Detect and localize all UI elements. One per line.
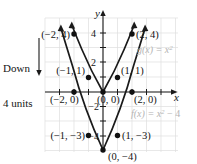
annotation-line-1: Down xyxy=(3,63,33,75)
point-label-neg1-1: (−1, 1) xyxy=(56,65,85,77)
point-label-neg1-neg3: (−1, −3) xyxy=(50,130,85,142)
down-arrow-head xyxy=(36,70,41,76)
point-label-2-0: (2, 0) xyxy=(134,94,157,106)
function-label-f-text: f(x) = x xyxy=(131,108,162,120)
point-marker xyxy=(129,31,134,36)
point-label-1-1: (1, 1) xyxy=(121,65,144,77)
y-tick-label-2: 2 xyxy=(91,57,96,68)
point-label-neg2-0: (−2, 0) xyxy=(50,94,79,106)
function-label-f-tail: − 4 xyxy=(165,108,181,119)
y-tick-label-4: 4 xyxy=(91,28,96,39)
y-axis-arrowhead xyxy=(100,10,105,16)
function-label-g-exponent: 2 xyxy=(169,44,173,52)
down-4-units-annotation: Down 4 units xyxy=(3,40,33,132)
graph-figure: 4 2 −2 −4 y x xyxy=(0,0,197,164)
function-label-g-text: g(x) = x xyxy=(137,44,170,56)
x-axis-label: x xyxy=(173,91,179,103)
point-label-0-0: (0, 0) xyxy=(97,94,120,106)
y-axis-label: y xyxy=(94,7,100,19)
point-marker xyxy=(86,133,91,138)
point-marker xyxy=(100,147,105,152)
point-label-0-neg4: (0, −4) xyxy=(108,151,137,163)
function-label-f: f(x) = x2 − 4 xyxy=(131,108,180,120)
point-marker xyxy=(86,75,91,80)
point-marker xyxy=(115,75,120,80)
function-label-g: g(x) = x2 xyxy=(137,44,173,56)
point-label-1-neg3: (1, −3) xyxy=(122,130,151,142)
point-label-2-4: (2, 4) xyxy=(136,29,159,41)
annotation-line-2: 4 units xyxy=(3,98,33,110)
point-marker xyxy=(71,31,76,36)
point-label-neg2-4: (−2, 4) xyxy=(41,29,70,41)
point-marker xyxy=(115,133,120,138)
